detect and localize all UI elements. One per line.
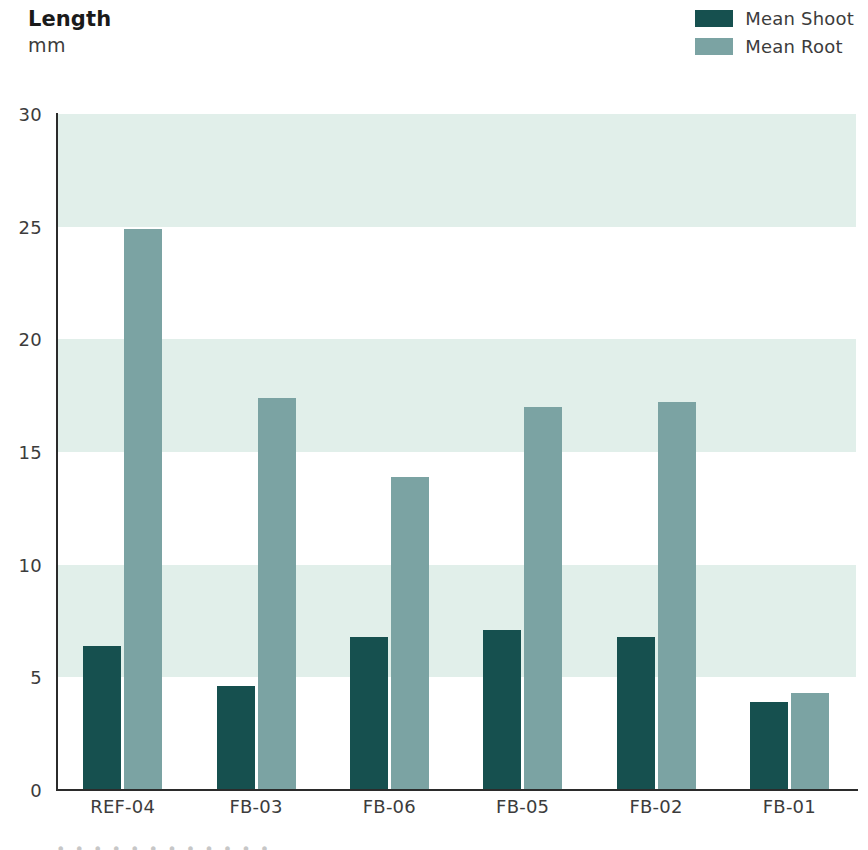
- legend-item-label: Mean Root: [745, 36, 842, 57]
- chart-legend: Mean ShootMean Root: [695, 8, 854, 57]
- legend-swatch-icon: [695, 10, 733, 27]
- x-axis-tick-label: FB-03: [229, 796, 282, 817]
- y-axis-tick-label: 25: [18, 216, 42, 237]
- x-axis-line: [56, 789, 858, 791]
- chart-unit-subtitle: mm: [28, 32, 111, 59]
- y-axis-tick-labels: 302520151050: [0, 96, 54, 796]
- bar-fb-02-mean-shoot[interactable]: [617, 637, 655, 790]
- bar-fb-01-mean-shoot[interactable]: [750, 702, 788, 790]
- bar-ref-04-mean-root[interactable]: [124, 229, 162, 790]
- legend-item-label: Mean Shoot: [745, 8, 854, 29]
- y-axis-tick-label: 15: [18, 442, 42, 463]
- legend-item[interactable]: Mean Shoot: [695, 8, 854, 29]
- bar-ref-04-mean-shoot[interactable]: [83, 646, 121, 790]
- plot-canvas: [56, 114, 856, 790]
- x-axis-tick-labels: REF-04FB-03FB-06FB-05FB-02FB-01: [56, 796, 856, 836]
- legend-swatch-icon: [695, 38, 733, 55]
- bar-fb-03-mean-shoot[interactable]: [217, 686, 255, 790]
- legend-item[interactable]: Mean Root: [695, 36, 854, 57]
- bar-fb-05-mean-shoot[interactable]: [483, 630, 521, 790]
- plot-area: 302520151050 REF-04FB-03FB-06FB-05FB-02F…: [0, 96, 868, 849]
- y-axis-tick-label: 5: [30, 667, 42, 688]
- page-title: Length: [28, 6, 111, 32]
- x-axis-tick-label: FB-02: [629, 796, 682, 817]
- y-axis-tick-label: 0: [30, 780, 42, 801]
- cut-off-footer-text: • • • • • • • • • • • •: [56, 840, 856, 850]
- y-axis-line: [56, 113, 58, 791]
- x-axis-tick-label: REF-04: [90, 796, 155, 817]
- bar-fb-02-mean-root[interactable]: [658, 402, 696, 790]
- chart-header: Length mm Mean ShootMean Root: [0, 0, 868, 96]
- bar-fb-05-mean-root[interactable]: [524, 407, 562, 790]
- bar-fb-06-mean-shoot[interactable]: [350, 637, 388, 790]
- bar-fb-06-mean-root[interactable]: [391, 477, 429, 790]
- x-axis-tick-label: FB-06: [363, 796, 416, 817]
- title-block: Length mm: [28, 6, 111, 59]
- y-axis-tick-label: 30: [18, 104, 42, 125]
- x-axis-tick-label: FB-01: [763, 796, 816, 817]
- bar-fb-03-mean-root[interactable]: [258, 398, 296, 790]
- x-axis-tick-label: FB-05: [496, 796, 549, 817]
- bars-layer: [56, 114, 856, 790]
- bar-fb-01-mean-root[interactable]: [791, 693, 829, 790]
- y-axis-tick-label: 20: [18, 329, 42, 350]
- y-axis-tick-label: 10: [18, 554, 42, 575]
